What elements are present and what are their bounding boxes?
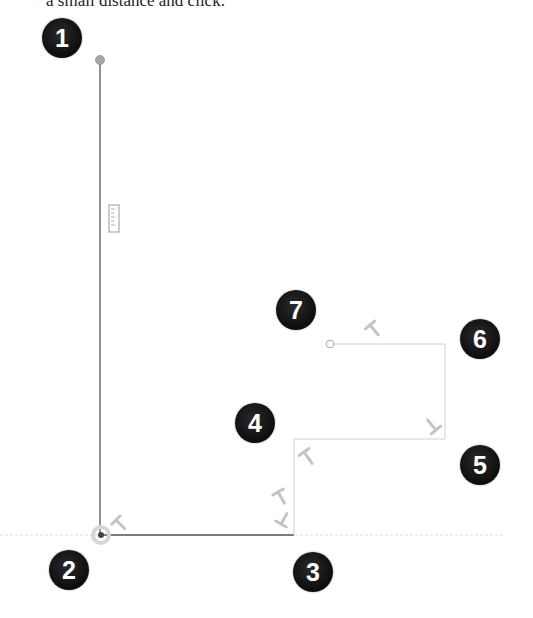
start-point-icon[interactable] <box>96 56 105 65</box>
perpendicular-constraint-icon <box>423 416 441 434</box>
marker-label: 2 <box>62 556 76 585</box>
callout-marker-6: 6 <box>460 319 500 359</box>
corner-point-icon[interactable] <box>98 532 104 538</box>
preview-stair-path <box>294 344 445 535</box>
ruler-icon <box>109 205 119 232</box>
marker-label: 3 <box>306 558 320 587</box>
perpendicular-constraint-icon <box>299 449 317 467</box>
marker-label: 1 <box>55 24 69 53</box>
marker-label: 4 <box>248 409 262 438</box>
callout-marker-1: 1 <box>42 18 82 58</box>
perpendicular-constraint-icon <box>112 516 129 533</box>
open-endpoint-icon[interactable] <box>326 340 334 348</box>
callout-marker-3: 3 <box>293 552 333 592</box>
sketch-canvas[interactable] <box>0 0 533 618</box>
callout-marker-5: 5 <box>460 445 500 485</box>
callout-marker-4: 4 <box>235 403 275 443</box>
perpendicular-constraint-icon <box>276 511 292 527</box>
marker-label: 7 <box>289 296 303 325</box>
marker-label: 5 <box>473 451 487 480</box>
callout-marker-7: 7 <box>276 290 316 330</box>
callout-marker-2: 2 <box>49 550 89 590</box>
perpendicular-constraint-icon <box>273 489 290 506</box>
marker-label: 6 <box>473 325 487 354</box>
perpendicular-constraint-icon <box>365 321 383 339</box>
